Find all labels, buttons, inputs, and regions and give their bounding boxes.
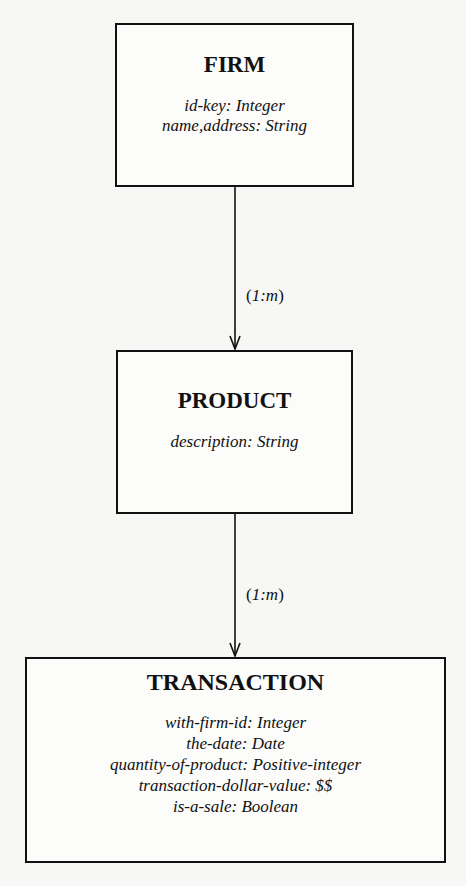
entity-title: PRODUCT [118,388,351,414]
attribute: id-key: Integer [117,96,352,116]
paren-close: ) [278,286,284,305]
entity-title: FIRM [117,52,352,78]
attribute: the-date: Date [27,733,444,754]
attribute-list: id-key: Integer name,address: String [117,96,352,136]
entity-transaction: TRANSACTION with-firm-id: Integer the-da… [25,657,446,863]
attribute: is-a-sale: Boolean [27,796,444,817]
cardinality-value: 1:m [252,286,278,305]
cardinality-label-product-transaction: (1:m) [246,585,284,605]
attribute-list: description: String [118,432,351,452]
attribute: quantity-of-product: Positive-integer [27,754,444,775]
paren-close: ) [278,585,284,604]
cardinality-label-firm-product: (1:m) [246,286,284,306]
attribute: with-firm-id: Integer [27,712,444,733]
attribute: transaction-dollar-value: $$ [27,775,444,796]
cardinality-value: 1:m [252,585,278,604]
attribute: name,address: String [117,116,352,136]
attribute-list: with-firm-id: Integer the-date: Date qua… [27,712,444,817]
entity-firm: FIRM id-key: Integer name,address: Strin… [115,23,354,187]
attribute: description: String [118,432,351,452]
entity-product: PRODUCT description: String [116,350,353,514]
entity-title: TRANSACTION [27,669,444,695]
